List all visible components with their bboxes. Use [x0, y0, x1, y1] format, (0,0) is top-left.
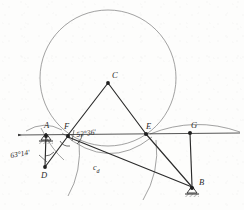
point-label-E: E — [146, 122, 151, 131]
point-label-C: C — [112, 71, 118, 80]
member-G-B — [190, 133, 192, 186]
node-dot-F — [66, 134, 70, 138]
member-A-D — [45, 134, 46, 167]
point-label-B: B — [199, 178, 204, 187]
node-dot-D — [43, 165, 47, 169]
technical-drawing — [0, 0, 244, 210]
node-dot-B — [190, 186, 194, 190]
node-dot-G — [188, 131, 192, 135]
point-label-A: A — [44, 121, 49, 130]
point-label-G: G — [191, 121, 197, 130]
baseline-axis — [18, 133, 240, 135]
arc-below-f — [68, 140, 80, 196]
member-C-E — [108, 83, 146, 134]
lens-arc-f-e — [62, 133, 152, 154]
support-hatch-A — [39, 141, 53, 144]
member-F-B — [68, 137, 192, 187]
construction-arcs — [26, 10, 240, 200]
member-F-C — [68, 83, 108, 135]
point-label-F: F — [64, 122, 69, 131]
node-dot-C — [106, 81, 110, 85]
large-construction-circle — [40, 10, 176, 146]
figure-canvas: A B C D E F G 63°14' 52°36' cd — [0, 0, 244, 210]
node-dot-A — [44, 134, 48, 138]
segment-label-cd: cd — [93, 164, 100, 174]
angle-arc-at-D — [45, 152, 54, 156]
point-label-D: D — [41, 171, 47, 180]
segment-label-subscript: d — [97, 168, 100, 174]
support-hatch-B — [185, 194, 199, 197]
node-dot-E — [144, 132, 148, 136]
